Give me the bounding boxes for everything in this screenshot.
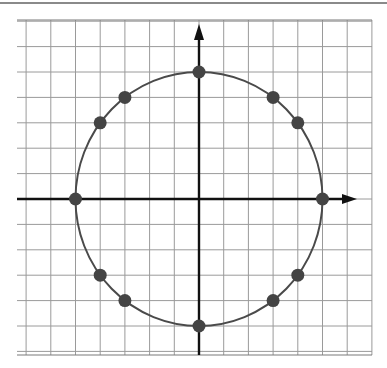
lattice-point [118,294,131,307]
lattice-point [193,66,206,79]
lattice-point [193,320,206,333]
x-axis-arrow-icon [342,194,357,204]
axes [17,24,357,355]
lattice-point [94,269,107,282]
lattice-point [291,269,304,282]
lattice-point [316,193,329,206]
lattice-point [267,91,280,104]
lattice-point [94,116,107,129]
lattice-point [291,116,304,129]
lattice-point [118,91,131,104]
lattice-point [69,193,82,206]
lattice-point [267,294,280,307]
y-axis-arrow-icon [194,24,204,40]
coordinate-grid-diagram [0,0,387,368]
